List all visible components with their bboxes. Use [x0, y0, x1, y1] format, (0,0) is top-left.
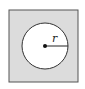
diagram-canvas: r — [0, 0, 85, 89]
center-point — [43, 44, 47, 48]
radius-label: r — [52, 32, 58, 45]
